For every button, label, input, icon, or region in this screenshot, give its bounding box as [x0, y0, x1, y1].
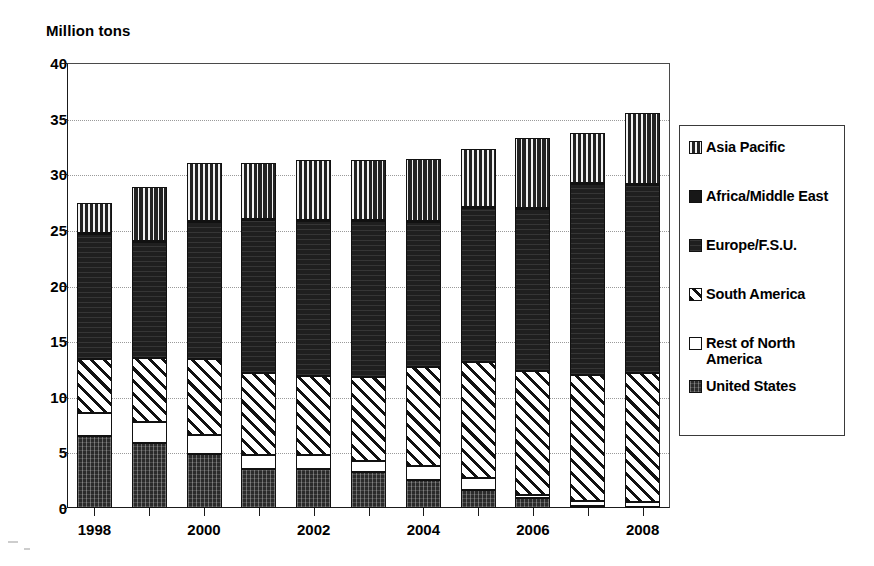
y-tick-mark: [60, 397, 67, 398]
bar-segment: [132, 242, 167, 358]
bar-segment: [241, 163, 276, 219]
scan-artifact: [8, 541, 18, 543]
bar-2000: [187, 163, 222, 508]
bar-segment: [406, 159, 441, 221]
legend-item[interactable]: United States: [689, 378, 796, 394]
bar-segment: [132, 358, 167, 423]
legend-item[interactable]: South America: [689, 286, 805, 302]
bar-segment: [515, 495, 550, 498]
bar-2008: [625, 113, 660, 508]
bar-2004: [406, 159, 441, 508]
bar-segment: [77, 413, 112, 435]
x-tick-label: 2004: [407, 521, 440, 538]
bar-segment: [515, 209, 550, 371]
y-tick-mark: [60, 341, 67, 342]
bar-segment: [351, 221, 386, 377]
bar-segment: [77, 359, 112, 414]
x-tick-label: 2006: [516, 521, 549, 538]
bar-segment: [515, 371, 550, 494]
bar-segment: [241, 455, 276, 469]
stacked-bar-chart: Million tons 0510152025303540 1998200020…: [0, 0, 874, 566]
bar-segment: [515, 498, 550, 508]
x-tick-label: 2008: [626, 521, 659, 538]
x-tick-mark: [478, 508, 479, 516]
bar-segment: [296, 376, 331, 455]
bar-1998: [77, 203, 112, 508]
bar-segment: [187, 454, 222, 509]
bar-2005: [461, 149, 496, 508]
bar-segment: [461, 208, 496, 363]
x-tick-mark: [259, 508, 260, 516]
bar-segment: [187, 163, 222, 221]
x-tick-label: 2002: [297, 521, 330, 538]
y-tick-mark: [60, 174, 67, 175]
y-tick-mark: [60, 230, 67, 231]
y-tick-mark: [60, 286, 67, 287]
bar-segment: [625, 373, 660, 502]
bar-segment: [351, 472, 386, 508]
bar-segment: [570, 184, 605, 374]
y-tick-mark: [60, 119, 67, 120]
x-tick-mark: [204, 508, 205, 516]
bar-2002: [296, 160, 331, 508]
scan-artifact: [24, 548, 30, 550]
bar-segment: [570, 375, 605, 502]
bar-2003: [351, 160, 386, 508]
bar-segment: [351, 160, 386, 220]
legend-label: Asia Pacific: [706, 139, 785, 155]
bar-segment: [351, 461, 386, 472]
y-tick-mark: [60, 63, 67, 64]
bar-segment: [187, 222, 222, 359]
x-tick-mark: [369, 508, 370, 516]
legend-label: Africa/Middle East: [706, 188, 828, 204]
x-tick-mark: [588, 508, 589, 516]
legend-label: United States: [706, 378, 796, 394]
bar-segment: [77, 234, 112, 359]
bar-segment: [132, 187, 167, 242]
bar-segment: [406, 466, 441, 480]
bar-2006: [515, 138, 550, 508]
x-tick-mark: [149, 508, 150, 516]
legend-item[interactable]: Europe/F.S.U.: [689, 237, 797, 253]
bar-segment: [77, 436, 112, 508]
y-tick-mark: [60, 508, 67, 509]
x-tick-mark: [423, 508, 424, 516]
bar-segment: [296, 455, 331, 469]
y-axis: 0510152025303540: [0, 0, 67, 566]
bars-layer: [67, 63, 670, 508]
bar-segment: [570, 133, 605, 183]
x-tick-mark: [314, 508, 315, 516]
bar-segment: [187, 359, 222, 435]
y-tick-mark: [60, 452, 67, 453]
vertical-stripe-icon: [689, 141, 702, 154]
white-icon: [689, 337, 702, 350]
x-tick-mark: [94, 508, 95, 516]
x-tick-mark: [533, 508, 534, 516]
bar-segment: [625, 113, 660, 184]
bar-segment: [296, 160, 331, 220]
legend-label: Rest of North America: [706, 335, 795, 367]
bar-segment: [241, 373, 276, 454]
legend-item[interactable]: Asia Pacific: [689, 139, 785, 155]
bar-segment: [570, 501, 605, 505]
bar-segment: [296, 469, 331, 508]
bar-segment: [77, 203, 112, 233]
legend-item[interactable]: Rest of North America: [689, 335, 795, 367]
bar-segment: [132, 443, 167, 508]
bar-segment: [515, 138, 550, 208]
bar-segment: [461, 478, 496, 490]
bar-segment: [351, 377, 386, 462]
bar-segment: [461, 149, 496, 207]
bar-segment: [406, 367, 441, 466]
solid-dark-icon: [689, 380, 702, 393]
legend-item[interactable]: Africa/Middle East: [689, 188, 828, 204]
bar-segment: [241, 220, 276, 374]
bar-segment: [406, 480, 441, 508]
bar-2007: [570, 133, 605, 508]
bar-2001: [241, 163, 276, 508]
x-tick-label: 1998: [78, 521, 111, 538]
x-tick-mark: [643, 508, 644, 516]
bar-segment: [461, 490, 496, 508]
bar-segment: [132, 422, 167, 443]
x-tick-label: 2000: [187, 521, 220, 538]
